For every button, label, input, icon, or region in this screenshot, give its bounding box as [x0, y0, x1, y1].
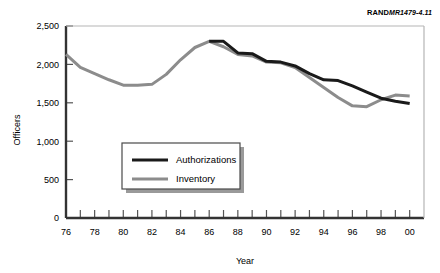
x-tick-label: 88 [233, 227, 243, 237]
y-tick-label: 1,500 [36, 98, 59, 108]
x-axis-ticks: 76788082848688909294969800 [61, 210, 415, 237]
x-tick-label: 80 [118, 227, 128, 237]
series-line-authorizations [209, 41, 409, 103]
y-tick-label: 500 [44, 175, 59, 185]
y-tick-label: 0 [54, 213, 59, 223]
y-axis-title-text: Officers [12, 114, 22, 145]
y-axis-title: Officers [12, 114, 22, 145]
x-tick-label: 82 [147, 227, 157, 237]
x-tick-label: 76 [61, 227, 71, 237]
x-tick-label: 86 [204, 227, 214, 237]
x-axis-title: Year [236, 256, 254, 266]
x-tick-label: 94 [319, 227, 329, 237]
x-tick-label: 90 [261, 227, 271, 237]
x-tick-label: 84 [176, 227, 186, 237]
x-axis-title-text: Year [236, 256, 254, 266]
x-tick-label: 92 [290, 227, 300, 237]
legend-label-authorizations: Authorizations [176, 154, 236, 165]
x-tick-label: 00 [405, 227, 415, 237]
x-tick-label: 78 [90, 227, 100, 237]
data-series-layer [66, 41, 410, 106]
y-axis-ticks: 05001,0001,5002,0002,500 [36, 21, 73, 223]
chart-figure: RANDMR1479-4.11 Officers Year 05001,0001… [0, 0, 440, 273]
x-tick-label: 98 [376, 227, 386, 237]
legend-label-inventory: Inventory [176, 173, 215, 184]
chart-legend: AuthorizationsInventory [122, 143, 244, 193]
y-tick-label: 2,000 [36, 60, 59, 70]
line-chart: Officers Year 05001,0001,5002,0002,500 7… [0, 0, 440, 273]
y-tick-label: 2,500 [36, 21, 59, 31]
y-tick-label: 1,000 [36, 137, 59, 147]
x-tick-label: 96 [347, 227, 357, 237]
